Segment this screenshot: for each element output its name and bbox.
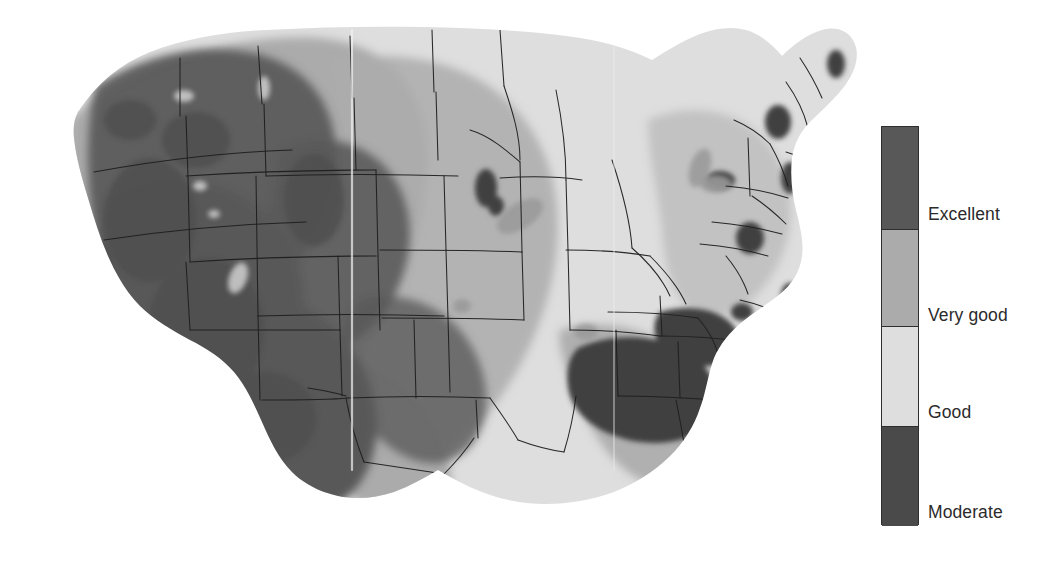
legend-label-good: Good xyxy=(928,404,971,422)
legend-swatch-moderate xyxy=(882,426,918,526)
map-shading-layers xyxy=(0,0,880,561)
legend-swatch-very-good xyxy=(882,229,918,326)
legend-swatch-excellent xyxy=(882,127,918,229)
legend-label-very-good: Very good xyxy=(928,307,1008,325)
legend-label-excellent: Excellent xyxy=(928,206,1000,224)
resource-quality-legend: Excellent Very good Good Moderate xyxy=(881,126,1060,526)
figure-root: Excellent Very good Good Moderate xyxy=(0,0,1060,561)
legend-label-moderate: Moderate xyxy=(928,504,1003,522)
map-svg xyxy=(0,0,880,561)
us-resource-map xyxy=(0,0,880,561)
legend-swatch-good xyxy=(882,326,918,426)
legend-color-bar xyxy=(881,126,919,525)
